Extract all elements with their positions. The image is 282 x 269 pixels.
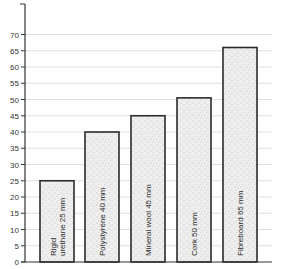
y-tick-label: 55 <box>10 79 19 88</box>
y-tick-label: 25 <box>10 177 19 186</box>
bar: Mineral wool 45 mm <box>131 116 165 262</box>
bar: Rigidurethane 25 mm <box>40 181 74 262</box>
y-tick-label: 30 <box>10 161 19 170</box>
y-tick-label: 20 <box>10 193 19 202</box>
bar-label: Cork 50 mm <box>190 212 199 256</box>
y-tick-label: 40 <box>10 128 19 137</box>
bar-label: Rigid <box>49 238 58 256</box>
bar-label: urethane 25 mm <box>58 197 67 256</box>
bar: Polystyrene 40 mm <box>85 132 119 262</box>
y-tick-label: 65 <box>10 47 19 56</box>
y-tick-label: 60 <box>10 63 19 72</box>
y-tick-label: 35 <box>10 144 19 153</box>
bar-chart: Rigidurethane 25 mmPolystyrene 40 mmMine… <box>0 0 282 269</box>
bar-label: Fibreboard 65 mm <box>236 190 245 256</box>
y-tick-label: 5 <box>15 242 20 251</box>
bar-label: Polystyrene 40 mm <box>98 187 107 256</box>
y-tick-label: 0 <box>15 258 20 267</box>
bar: Fibreboard 65 mm <box>223 48 257 263</box>
y-tick-label: 45 <box>10 112 19 121</box>
y-tick-label: 70 <box>10 31 19 40</box>
bars: Rigidurethane 25 mmPolystyrene 40 mmMine… <box>40 48 257 263</box>
y-tick-label: 10 <box>10 226 19 235</box>
bar-label: Mineral wool 45 mm <box>144 184 153 256</box>
y-tick-label: 50 <box>10 96 19 105</box>
y-tick-label: 15 <box>10 209 19 218</box>
bar: Cork 50 mm <box>177 98 211 262</box>
